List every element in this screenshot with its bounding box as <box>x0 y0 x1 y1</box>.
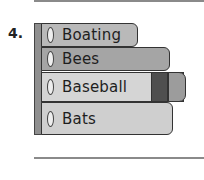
book-band-mid <box>168 72 186 102</box>
book-baseball: Baseball <box>41 72 184 102</box>
question-number: 4. <box>8 25 23 41</box>
book-label: Bees <box>62 50 99 68</box>
book-bees: Bees <box>41 47 170 71</box>
book-label: Boating <box>62 26 121 44</box>
answer-line[interactable] <box>34 157 204 159</box>
book-band-dark <box>151 72 168 102</box>
top-rule <box>34 0 204 2</box>
oval-icon <box>47 27 54 43</box>
book-boating: Boating <box>41 23 138 47</box>
oval-icon <box>47 79 54 95</box>
oval-icon <box>47 51 54 67</box>
book-label: Baseball <box>62 78 127 96</box>
book-label: Bats <box>62 110 96 128</box>
book-bats: Bats <box>41 102 173 135</box>
oval-icon <box>47 111 54 127</box>
